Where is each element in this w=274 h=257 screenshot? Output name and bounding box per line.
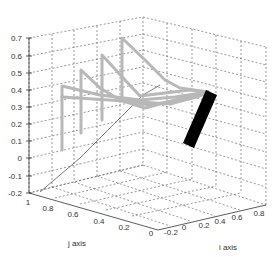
svg-text:0.3: 0.3	[11, 103, 23, 112]
floor-grid	[29, 165, 266, 226]
svg-text:0: 0	[182, 223, 187, 232]
svg-text:1: 1	[26, 198, 31, 207]
svg-text:-0.1: -0.1	[8, 172, 22, 181]
z-tick-labels: 0.7 0.6 0.5 0.4 0.3 0.2 0.1 0 -0.1 -0.2	[8, 34, 22, 198]
svg-text:0: 0	[149, 229, 154, 238]
svg-text:0.1: 0.1	[11, 137, 23, 146]
svg-text:0.4: 0.4	[11, 86, 23, 95]
svg-text:0.2: 0.2	[11, 120, 23, 129]
svg-text:0.4: 0.4	[93, 217, 105, 226]
svg-text:-0.2: -0.2	[8, 189, 22, 198]
svg-text:0.6: 0.6	[67, 210, 79, 219]
svg-text:0.7: 0.7	[11, 34, 23, 43]
svg-text:0.6: 0.6	[231, 213, 243, 222]
svg-text:0: 0	[18, 154, 23, 163]
svg-text:0.6: 0.6	[11, 52, 23, 61]
svg-text:-0.2: -0.2	[164, 228, 178, 237]
3d-line-plot: 0.7 0.6 0.5 0.4 0.3 0.2 0.1 0 -0.1 -0.2 …	[0, 0, 274, 257]
gray-traces	[62, 38, 208, 150]
svg-text:0.2: 0.2	[118, 223, 130, 232]
svg-text:0.2: 0.2	[198, 221, 210, 230]
svg-text:0.8: 0.8	[42, 204, 54, 213]
i-tick-labels: -0.2 0 0.2 0.4 0.6 0.8	[164, 209, 265, 237]
j-axis-label: j axis	[67, 239, 86, 248]
svg-text:0.4: 0.4	[214, 217, 226, 226]
i-axis-label: i axis	[219, 243, 237, 252]
svg-text:0.8: 0.8	[253, 209, 265, 218]
svg-text:0.5: 0.5	[11, 69, 23, 78]
